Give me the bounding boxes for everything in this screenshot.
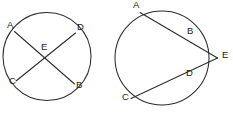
left-label-c: C bbox=[9, 75, 16, 86]
right-label-d: D bbox=[186, 67, 193, 78]
right-label-c: C bbox=[122, 91, 129, 102]
geometry-figure-canvas: A D E C B A B E D C bbox=[0, 0, 233, 113]
right-label-b: B bbox=[187, 25, 193, 36]
left-label-e: E bbox=[41, 41, 47, 52]
left-diagram-group: A D E C B bbox=[3, 13, 91, 101]
right-secant-a-to-e bbox=[140, 13, 218, 59]
left-label-d: D bbox=[77, 21, 84, 32]
right-diagram-group: A B E D C bbox=[115, 0, 228, 105]
right-label-e: E bbox=[222, 49, 228, 60]
left-label-b: B bbox=[76, 79, 82, 90]
left-label-a: A bbox=[7, 19, 14, 30]
right-label-a: A bbox=[133, 0, 140, 10]
